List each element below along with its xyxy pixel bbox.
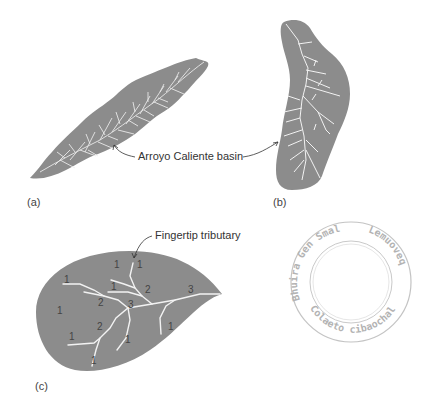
order-label: 3 [128, 299, 134, 310]
figure-canvas: 1 1 1 1 2 1 2 3 3 2 1 1 1 1 [0, 0, 429, 412]
order-label: 2 [145, 284, 151, 295]
order-label: 1 [57, 305, 63, 316]
panel-label-c: (c) [35, 380, 48, 392]
order-label: 1 [114, 259, 120, 270]
panel-label-b: (b) [273, 196, 286, 208]
order-label: 2 [98, 297, 104, 308]
order-label: 1 [64, 274, 70, 285]
basin-c: 1 1 1 1 2 1 2 3 3 2 1 1 1 1 [36, 251, 222, 371]
order-label: 1 [69, 331, 75, 342]
drainage-basin-figure: 1 1 1 1 2 1 2 3 3 2 1 1 1 1 [0, 0, 429, 412]
order-label: 1 [125, 334, 131, 345]
order-label: 3 [188, 284, 194, 295]
stamp-right-text: Lemuoveq [367, 224, 409, 267]
order-label: 1 [137, 259, 143, 270]
fingertip-tributary-label: Fingertip tributary [155, 229, 241, 241]
order-label: 2 [97, 321, 103, 332]
order-label: 1 [91, 355, 97, 366]
order-label: 1 [111, 281, 117, 292]
arroyo-caliente-label: Arroyo Caliente basin [138, 150, 243, 162]
order-label: 1 [168, 321, 174, 332]
panel-label-a: (a) [27, 196, 40, 208]
basin-b [276, 20, 350, 190]
